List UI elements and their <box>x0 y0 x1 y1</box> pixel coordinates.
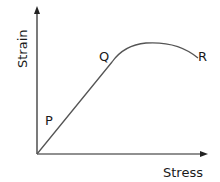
point-r-label: R <box>198 49 207 64</box>
point-q-label: Q <box>99 49 109 64</box>
stress-strain-diagram: Strain Stress P Q R <box>0 0 220 182</box>
x-axis-label: Stress <box>163 165 203 180</box>
curve <box>37 43 198 154</box>
point-p-label: P <box>45 113 53 128</box>
y-axis-label: Strain <box>15 29 30 68</box>
